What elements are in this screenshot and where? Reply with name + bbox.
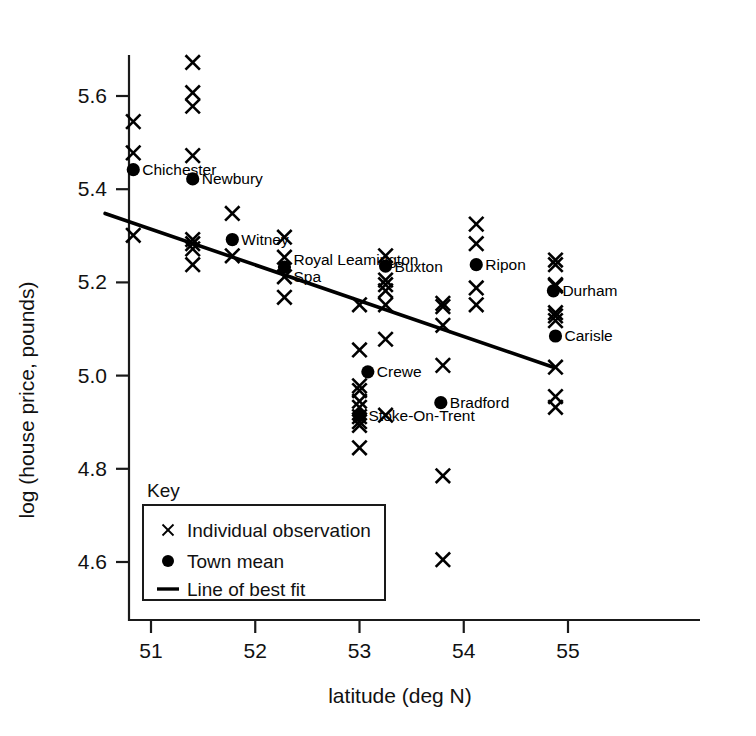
- observation-x-marker: [469, 281, 483, 295]
- town-mean-markers: [127, 163, 562, 422]
- town-label: Crewe: [377, 363, 422, 380]
- legend-title: Key: [147, 480, 180, 501]
- observation-x-marker: [186, 55, 200, 69]
- chart-legend: KeyIndividual observationTown meanLine o…: [143, 480, 385, 600]
- scatter-plot: ChichesterNewburyWitneyRoyal LeamingtonS…: [0, 0, 756, 736]
- town-label: Witney: [241, 231, 289, 248]
- y-tick-label: 4.8: [78, 457, 107, 480]
- observation-x-marker: [436, 358, 450, 372]
- legend-dot-icon: [162, 555, 174, 567]
- observation-x-marker: [186, 99, 200, 113]
- y-axis-tick-labels: 4.64.85.05.25.45.6: [78, 84, 108, 573]
- y-axis-title: log (house price, pounds): [15, 282, 38, 519]
- legend-item: Individual observation: [163, 520, 371, 541]
- town-mean-dot: [278, 260, 291, 273]
- town-mean-dot: [226, 233, 239, 246]
- observation-x-marker: [378, 332, 392, 346]
- y-tick-label: 5.6: [78, 84, 107, 107]
- line-of-best-fit: [105, 213, 553, 367]
- observation-x-marker: [352, 441, 366, 455]
- legend-item: Line of best fit: [157, 579, 306, 600]
- observation-x-marker: [548, 400, 562, 414]
- legend-item-label: Individual observation: [187, 520, 371, 541]
- observation-x-marker: [436, 469, 450, 483]
- y-tick-label: 5.0: [78, 364, 107, 387]
- x-tick-label: 53: [348, 639, 371, 662]
- town-label: Buxton: [395, 258, 443, 275]
- chart-page: ChichesterNewburyWitneyRoyal LeamingtonS…: [0, 0, 756, 736]
- best-fit-line: [105, 213, 553, 367]
- individual-observation-markers: [126, 55, 563, 567]
- observation-x-marker: [352, 343, 366, 357]
- legend-item-label: Town mean: [187, 551, 284, 572]
- observation-x-marker: [186, 86, 200, 100]
- town-label: Bradford: [450, 394, 509, 411]
- x-axis-title: latitude (deg N): [328, 684, 472, 707]
- observation-x-marker: [469, 217, 483, 231]
- town-mean-dot: [127, 163, 140, 176]
- town-label: Carisle: [564, 327, 612, 344]
- x-tick-label: 51: [139, 639, 162, 662]
- observation-x-marker: [277, 290, 291, 304]
- town-mean-dot: [470, 258, 483, 271]
- legend-item: Town mean: [162, 551, 284, 572]
- town-mean-dot: [353, 409, 366, 422]
- x-axis-tick-labels: 5152535455: [139, 639, 579, 662]
- observation-x-marker: [469, 298, 483, 312]
- x-tick-label: 52: [244, 639, 267, 662]
- town-mean-dot: [547, 284, 560, 297]
- legend-item-label: Line of best fit: [187, 579, 306, 600]
- town-mean-labels: ChichesterNewburyWitneyRoyal LeamingtonS…: [142, 161, 617, 424]
- town-label: Newbury: [202, 170, 263, 187]
- y-tick-label: 5.2: [78, 270, 107, 293]
- observation-x-marker: [469, 237, 483, 251]
- town-label: Durham: [562, 282, 617, 299]
- x-tick-label: 54: [452, 639, 476, 662]
- town-mean-dot: [549, 329, 562, 342]
- x-tick-label: 55: [556, 639, 579, 662]
- y-tick-label: 5.4: [78, 177, 108, 200]
- y-tick-label: 4.6: [78, 550, 107, 573]
- town-label: Ripon: [485, 256, 526, 273]
- observation-x-marker: [225, 206, 239, 220]
- observation-x-marker: [436, 552, 450, 566]
- town-mean-dot: [361, 365, 374, 378]
- observation-x-marker: [186, 257, 200, 271]
